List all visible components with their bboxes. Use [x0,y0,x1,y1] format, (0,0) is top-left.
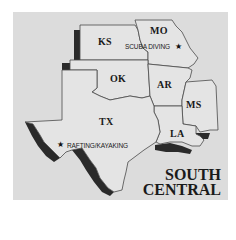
label-mo: MO [150,25,168,36]
activity-rafting-kayaking: RAFTING/KAYAKING [67,142,128,149]
label-la: LA [170,128,185,139]
label-ar: AR [157,79,172,90]
region-title: SOUTH CENTRAL [143,167,221,197]
region-title-line2: CENTRAL [143,182,221,197]
region-title-line1: SOUTH [143,167,221,182]
label-tx: TX [99,116,114,127]
label-ms: MS [186,99,202,110]
label-ks: KS [98,36,112,47]
star-marker-icon: ★ [175,43,182,51]
activity-scuba-diving: SCUBA DIVING [125,43,170,50]
label-ok: OK [110,73,126,84]
star-marker-icon: ★ [57,141,64,149]
